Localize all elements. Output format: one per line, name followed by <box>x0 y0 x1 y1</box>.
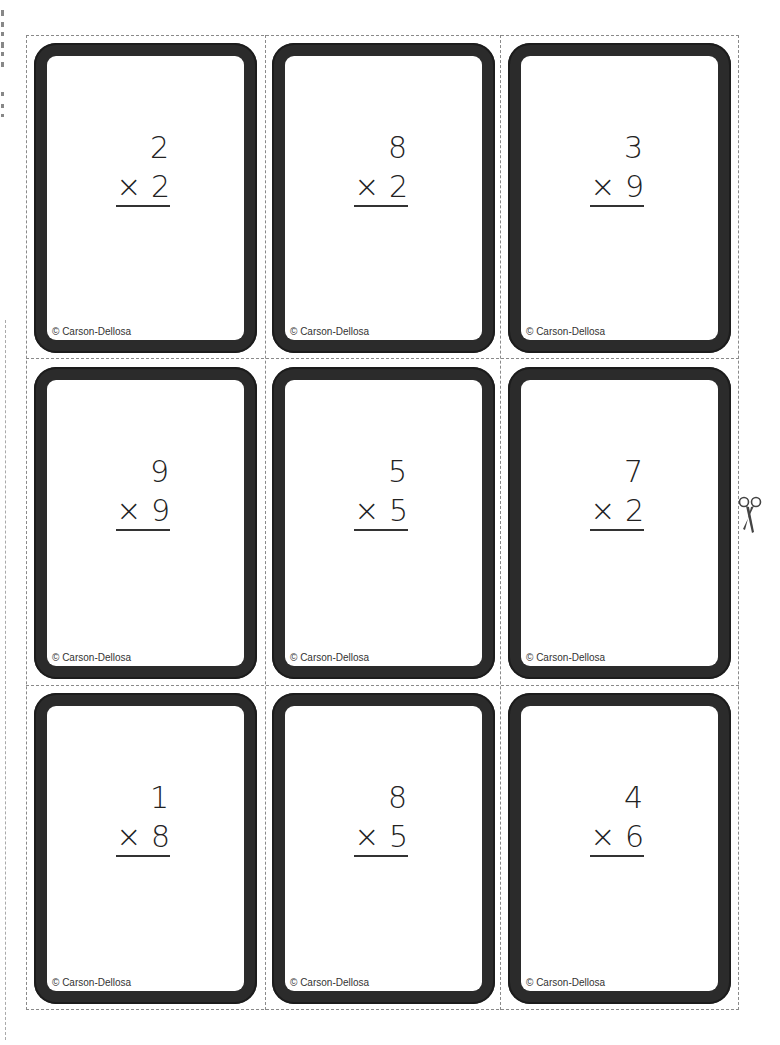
multiplicand: 2 <box>150 130 170 165</box>
multiplicand: 3 <box>624 130 644 165</box>
flash-card: 4× 6© Carson-Dellosa <box>508 693 731 1004</box>
multiplicand: 5 <box>388 454 408 489</box>
multiplication-problem: 2× 2 <box>47 130 244 220</box>
multiplicand: 7 <box>624 454 644 489</box>
card-face: 8× 2© Carson-Dellosa <box>285 56 482 340</box>
left-cut-line <box>5 320 6 1040</box>
flash-card: 8× 2© Carson-Dellosa <box>272 43 495 353</box>
card-face: 7× 2© Carson-Dellosa <box>521 380 718 666</box>
multiplication-problem: 5× 5 <box>285 454 482 544</box>
card-face: 5× 5© Carson-Dellosa <box>285 380 482 666</box>
multiplication-problem: 7× 2 <box>521 454 718 544</box>
copyright-label: © Carson-Dellosa <box>52 652 131 663</box>
multiplication-problem: 3× 9 <box>521 130 718 220</box>
multiplicand: 8 <box>388 780 408 815</box>
card-face: 2× 2© Carson-Dellosa <box>47 56 244 340</box>
card-face: 4× 6© Carson-Dellosa <box>521 706 718 991</box>
multiplier: × 5 <box>354 819 408 857</box>
copyright-label: © Carson-Dellosa <box>290 326 369 337</box>
multiplicand: 1 <box>150 780 170 815</box>
copyright-label: © Carson-Dellosa <box>290 652 369 663</box>
flash-card: 8× 5© Carson-Dellosa <box>272 693 495 1004</box>
flash-card: 5× 5© Carson-Dellosa <box>272 367 495 679</box>
multiplication-problem: 8× 5 <box>285 780 482 870</box>
copyright-label: © Carson-Dellosa <box>526 652 605 663</box>
flash-card: 2× 2© Carson-Dellosa <box>34 43 257 353</box>
multiplier: × 9 <box>590 169 644 207</box>
multiplication-problem: 9× 9 <box>47 454 244 544</box>
multiplication-problem: 4× 6 <box>521 780 718 870</box>
cut-line-vertical <box>500 35 501 1010</box>
multiplicand: 9 <box>150 454 170 489</box>
multiplier: × 5 <box>354 493 408 531</box>
copyright-label: © Carson-Dellosa <box>52 326 131 337</box>
cut-line-horizontal <box>26 685 739 686</box>
flash-card: 7× 2© Carson-Dellosa <box>508 367 731 679</box>
multiplier: × 6 <box>590 819 644 857</box>
copyright-label: © Carson-Dellosa <box>526 326 605 337</box>
scissors-icon <box>737 495 763 535</box>
multiplier: × 2 <box>590 493 644 531</box>
copyright-label: © Carson-Dellosa <box>290 977 369 988</box>
card-face: 9× 9© Carson-Dellosa <box>47 380 244 666</box>
multiplier: × 2 <box>116 169 170 207</box>
multiplication-problem: 8× 2 <box>285 130 482 220</box>
multiplier: × 8 <box>116 819 170 857</box>
cut-line-horizontal <box>26 358 739 359</box>
flash-card: 1× 8© Carson-Dellosa <box>34 693 257 1004</box>
copyright-label: © Carson-Dellosa <box>52 977 131 988</box>
cut-line-vertical <box>265 35 266 1010</box>
flash-card: 3× 9© Carson-Dellosa <box>508 43 731 353</box>
card-face: 8× 5© Carson-Dellosa <box>285 706 482 991</box>
card-face: 3× 9© Carson-Dellosa <box>521 56 718 340</box>
multiplier: × 2 <box>354 169 408 207</box>
flash-card: 9× 9© Carson-Dellosa <box>34 367 257 679</box>
multiplication-problem: 1× 8 <box>47 780 244 870</box>
card-face: 1× 8© Carson-Dellosa <box>47 706 244 991</box>
copyright-label: © Carson-Dellosa <box>526 977 605 988</box>
multiplicand: 8 <box>388 130 408 165</box>
multiplicand: 4 <box>624 780 644 815</box>
multiplier: × 9 <box>116 493 170 531</box>
